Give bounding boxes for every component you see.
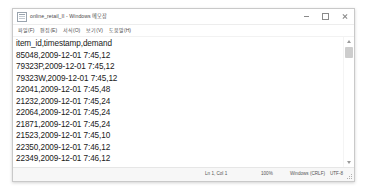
text-line: 22349,2009-12-01 7:46,12 bbox=[16, 153, 343, 165]
text-line: 79323W,2009-12-01 7:45,12 bbox=[16, 73, 343, 85]
text-line-header: item_id,timestamp,demand bbox=[16, 38, 343, 50]
resize-grip-icon[interactable] bbox=[346, 174, 352, 180]
text-line: 22350,2009-12-01 7:46,12 bbox=[16, 142, 343, 154]
text-editor[interactable]: item_id,timestamp,demand 85048,2009-12-0… bbox=[13, 37, 343, 167]
maximize-icon bbox=[322, 13, 329, 20]
text-line: 21871,2009-12-01 7:45,24 bbox=[16, 119, 343, 131]
text-line: 85048,2009-12-01 7:45,12 bbox=[16, 50, 343, 62]
maximize-button[interactable] bbox=[316, 9, 335, 24]
menu-item-view[interactable]: 보기(V) bbox=[86, 28, 103, 33]
window-title: online_retail_II - Windows 메모장 bbox=[30, 14, 107, 19]
menu-item-file[interactable]: 파일(F) bbox=[18, 28, 34, 33]
status-zoom-level[interactable]: 100% bbox=[261, 172, 273, 177]
menu-bar: 파일(F) 편집(E) 서식(O) 보기(V) 도움말(H) bbox=[13, 25, 354, 37]
editor-area: item_id,timestamp,demand 85048,2009-12-0… bbox=[13, 37, 354, 167]
menu-item-format[interactable]: 서식(O) bbox=[63, 28, 80, 33]
scroll-up-arrow-icon bbox=[347, 40, 351, 43]
text-line: 21232,2009-12-01 7:45,24 bbox=[16, 96, 343, 108]
status-line-ending: Windows (CRLF) bbox=[290, 172, 325, 177]
minimize-icon bbox=[304, 16, 309, 17]
window-controls bbox=[297, 9, 354, 24]
vertical-scrollbar[interactable] bbox=[343, 37, 354, 167]
status-bar: Ln 1, Col 1 100% Windows (CRLF) UTF-8 bbox=[13, 167, 354, 181]
desktop-background: online_retail_II - Windows 메모장 파일(F) 편집(… bbox=[0, 0, 365, 187]
text-line: 22064,2009-12-01 7:45,24 bbox=[16, 107, 343, 119]
close-icon bbox=[342, 14, 348, 20]
notepad-window: online_retail_II - Windows 메모장 파일(F) 편집(… bbox=[12, 8, 355, 182]
close-button[interactable] bbox=[335, 9, 354, 24]
notepad-icon bbox=[17, 12, 27, 22]
scrollbar-thumb[interactable] bbox=[345, 47, 353, 58]
scroll-up-button[interactable] bbox=[344, 37, 354, 46]
menu-item-edit[interactable]: 편집(E) bbox=[40, 28, 57, 33]
text-line: 22041,2009-12-01 7:45,48 bbox=[16, 84, 343, 96]
status-cursor-position: Ln 1, Col 1 bbox=[205, 172, 227, 177]
title-bar[interactable]: online_retail_II - Windows 메모장 bbox=[13, 9, 354, 25]
text-line: 21523,2009-12-01 7:45,10 bbox=[16, 130, 343, 142]
scroll-down-arrow-icon bbox=[347, 161, 351, 164]
text-line: 79323P,2009-12-01 7:45,12 bbox=[16, 61, 343, 73]
status-encoding: UTF-8 bbox=[330, 172, 343, 177]
minimize-button[interactable] bbox=[297, 9, 316, 24]
menu-item-help[interactable]: 도움말(H) bbox=[109, 28, 131, 33]
scroll-down-button[interactable] bbox=[344, 158, 354, 167]
